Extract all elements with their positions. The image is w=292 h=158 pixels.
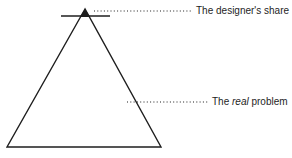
label-real-problem: The real problem	[212, 96, 288, 108]
real-problem-suffix: problem	[249, 96, 288, 107]
tip-fill	[80, 9, 90, 17]
real-problem-italic: real	[232, 96, 249, 107]
real-problem-prefix: The	[212, 96, 232, 107]
triangle-diagram	[0, 0, 292, 158]
problem-triangle	[7, 9, 161, 147]
label-designers-share: The designer's share	[196, 5, 289, 17]
designers-share-text: The designer's share	[196, 5, 289, 16]
